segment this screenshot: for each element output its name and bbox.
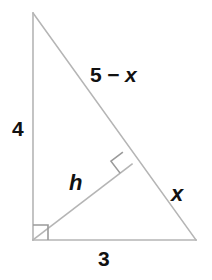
label-hypotenuse-upper-segment: 5−x — [90, 64, 137, 85]
label-hypotenuse-upper-operator: − — [107, 63, 120, 86]
label-altitude-h: h — [69, 172, 82, 194]
geometry-figure: 5−x 4 h x 3 — [0, 0, 212, 280]
triangle-diagram-svg — [0, 0, 212, 280]
right-angle-marker-altitude-foot — [111, 152, 132, 173]
label-hypotenuse-upper-number: 5 — [90, 63, 102, 86]
label-vertical-leg: 4 — [12, 118, 24, 139]
label-hypotenuse-upper-variable: x — [125, 63, 137, 86]
label-base-leg: 3 — [98, 248, 110, 269]
label-hypotenuse-lower-segment: x — [171, 183, 183, 205]
